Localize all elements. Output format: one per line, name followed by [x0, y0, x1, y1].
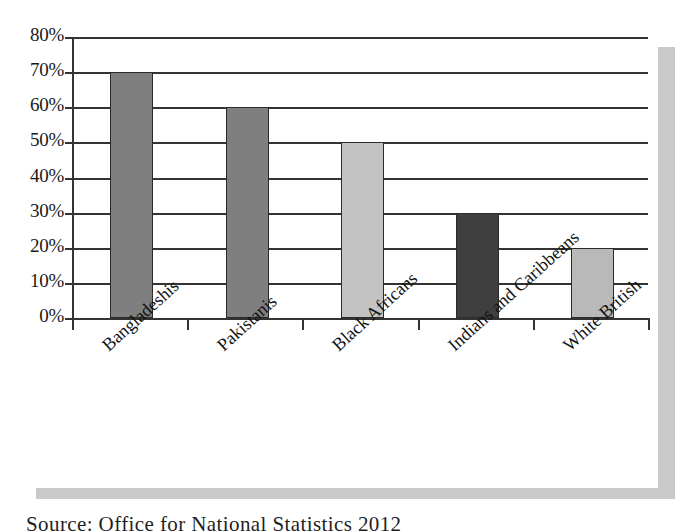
y-axis-tick-label: 30%	[2, 200, 64, 222]
y-axis-tick	[65, 248, 72, 250]
figure-source-caption: Source: Office for National Statistics 2…	[26, 512, 401, 532]
y-axis-tick-label: 60%	[2, 94, 64, 116]
x-axis-tick	[648, 318, 650, 330]
x-axis-tick	[72, 318, 74, 330]
bar	[110, 72, 153, 318]
y-axis-tick-label: 20%	[2, 235, 64, 257]
y-axis-tick	[65, 107, 72, 109]
x-axis-tick	[302, 318, 304, 330]
y-axis-tick	[65, 178, 72, 180]
y-axis-tick-label: 0%	[2, 305, 64, 327]
page-shadow-bottom	[36, 487, 675, 499]
y-axis-tick-label: 70%	[2, 59, 64, 81]
gridline	[72, 72, 648, 74]
y-axis-tick	[65, 142, 72, 144]
y-axis-tick	[65, 283, 72, 285]
page-shadow-right	[657, 47, 675, 497]
y-axis-tick-label: 80%	[2, 24, 64, 46]
scanned-figure-page: 80%70%60%50%40%30%20%10%0% BangladeshisP…	[0, 0, 683, 532]
x-axis-tick	[418, 318, 420, 330]
x-axis-tick	[533, 318, 535, 330]
y-axis-tick	[65, 318, 72, 320]
gridline	[72, 37, 648, 39]
gridline	[72, 107, 648, 109]
y-axis-tick	[65, 213, 72, 215]
y-axis-tick-label: 40%	[2, 165, 64, 187]
y-axis-tick-label: 10%	[2, 270, 64, 292]
y-axis-tick	[65, 37, 72, 39]
plot-area	[72, 37, 648, 318]
y-axis-tick-label: 50%	[2, 129, 64, 151]
y-axis-tick	[65, 72, 72, 74]
y-axis-line	[72, 37, 74, 320]
bar	[341, 142, 384, 318]
x-axis-tick	[187, 318, 189, 330]
bar	[226, 107, 269, 318]
